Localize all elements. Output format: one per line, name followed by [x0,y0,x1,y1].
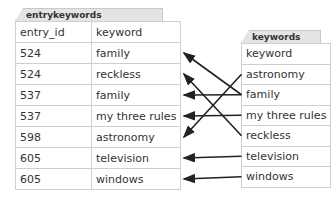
arrow-family [184,53,242,95]
arrow-television [184,156,242,158]
relationship-arrows [0,0,336,201]
arrow-my-three-rules [184,115,242,116]
arrow-windows [184,177,242,179]
